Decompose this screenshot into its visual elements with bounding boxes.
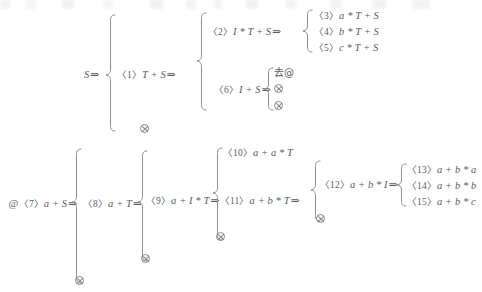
dead-end-marker bbox=[316, 214, 325, 223]
node-root-7: @〈7〉a + S⇒ bbox=[8, 199, 77, 210]
node-15: 〈15〉a + b * c bbox=[407, 197, 476, 208]
brace-node-9 bbox=[212, 147, 224, 241]
node-10: 〈10〉a + a * T bbox=[223, 148, 293, 159]
node-2-number: 〈2〉 bbox=[208, 27, 233, 37]
derivation-figure: S⇒ 〈1〉T + S⇒ 〈2〉I * T + S⇒ 〈3〉a * T + S … bbox=[0, 0, 482, 292]
node-1-number: 〈1〉 bbox=[117, 70, 142, 80]
node-13: 〈13〉a + b * a bbox=[407, 165, 476, 176]
node-14: 〈14〉a + b * b bbox=[407, 181, 476, 192]
node-cjk-label: 去@ bbox=[274, 67, 294, 78]
node-2-label: I * T + S bbox=[233, 26, 271, 37]
dead-end-marker bbox=[140, 124, 149, 133]
node-7-prefix: @ bbox=[8, 198, 19, 209]
dead-end-marker bbox=[216, 232, 225, 241]
dead-end-marker bbox=[141, 254, 150, 263]
node-8: 〈8〉a + T⇒ bbox=[83, 199, 141, 210]
node-1: 〈1〉T + S⇒ bbox=[117, 70, 175, 81]
scan-artifact-band bbox=[0, 0, 482, 9]
node-4: 〈4〉b * T + S bbox=[314, 27, 379, 38]
dead-end-marker bbox=[274, 84, 283, 93]
node-8-label: a + T bbox=[108, 198, 132, 209]
node-10-label: a + a * T bbox=[253, 147, 293, 158]
node-15-number: 〈15〉 bbox=[407, 197, 437, 207]
node-9-label: a + I * T bbox=[171, 195, 209, 206]
node-6-label: I + S bbox=[239, 84, 261, 95]
node-root-S-arrow: ⇒ bbox=[89, 69, 98, 80]
node-12-label: a + b * I bbox=[350, 179, 388, 190]
node-14-number: 〈14〉 bbox=[407, 181, 437, 191]
node-1-arrow: ⇒ bbox=[166, 69, 175, 80]
node-2: 〈2〉I * T + S⇒ bbox=[208, 27, 281, 38]
node-14-label: a + b * b bbox=[437, 180, 477, 191]
brace-node-1 bbox=[196, 12, 208, 111]
node-5: 〈5〉c * T + S bbox=[314, 43, 378, 54]
node-11-number: 〈11〉 bbox=[220, 196, 250, 206]
dead-end-marker bbox=[274, 101, 283, 110]
node-3-label: a * T + S bbox=[339, 10, 379, 21]
brace-node-7 bbox=[71, 148, 83, 284]
node-3: 〈3〉a * T + S bbox=[314, 11, 379, 22]
node-root-S: S⇒ bbox=[84, 70, 99, 81]
brace-node-11 bbox=[310, 160, 322, 222]
node-6-number: 〈6〉 bbox=[214, 85, 239, 95]
node-9: 〈9〉a + I * T⇒ bbox=[146, 196, 219, 207]
node-7-number: 〈7〉 bbox=[19, 199, 44, 209]
node-12-number: 〈12〉 bbox=[320, 180, 350, 190]
node-2-arrow: ⇒ bbox=[271, 26, 280, 37]
node-6: 〈6〉I + S⇒ bbox=[214, 85, 270, 96]
node-9-number: 〈9〉 bbox=[146, 196, 171, 206]
brace-root-S bbox=[105, 14, 117, 132]
node-11-label: a + b * T bbox=[250, 195, 290, 206]
node-12: 〈12〉a + b * I⇒ bbox=[320, 180, 397, 191]
node-13-number: 〈13〉 bbox=[407, 165, 437, 175]
node-11-arrow: ⇒ bbox=[290, 195, 299, 206]
node-1-label: T + S bbox=[142, 69, 166, 80]
node-13-label: a + b * a bbox=[437, 164, 477, 175]
node-cjk-annotation: 去@ bbox=[274, 68, 294, 79]
node-3-number: 〈3〉 bbox=[314, 11, 339, 21]
node-10-number: 〈10〉 bbox=[223, 148, 253, 158]
node-11: 〈11〉a + b * T⇒ bbox=[220, 196, 299, 207]
node-4-number: 〈4〉 bbox=[314, 27, 339, 37]
node-7-label: a + S bbox=[44, 198, 67, 209]
node-4-label: b * T + S bbox=[339, 26, 379, 37]
node-5-label: c * T + S bbox=[339, 42, 378, 53]
node-5-number: 〈5〉 bbox=[314, 43, 339, 53]
brace-node-2 bbox=[302, 9, 314, 53]
node-15-label: a + b * c bbox=[437, 196, 476, 207]
node-8-number: 〈8〉 bbox=[83, 199, 108, 209]
dead-end-marker bbox=[75, 276, 84, 285]
